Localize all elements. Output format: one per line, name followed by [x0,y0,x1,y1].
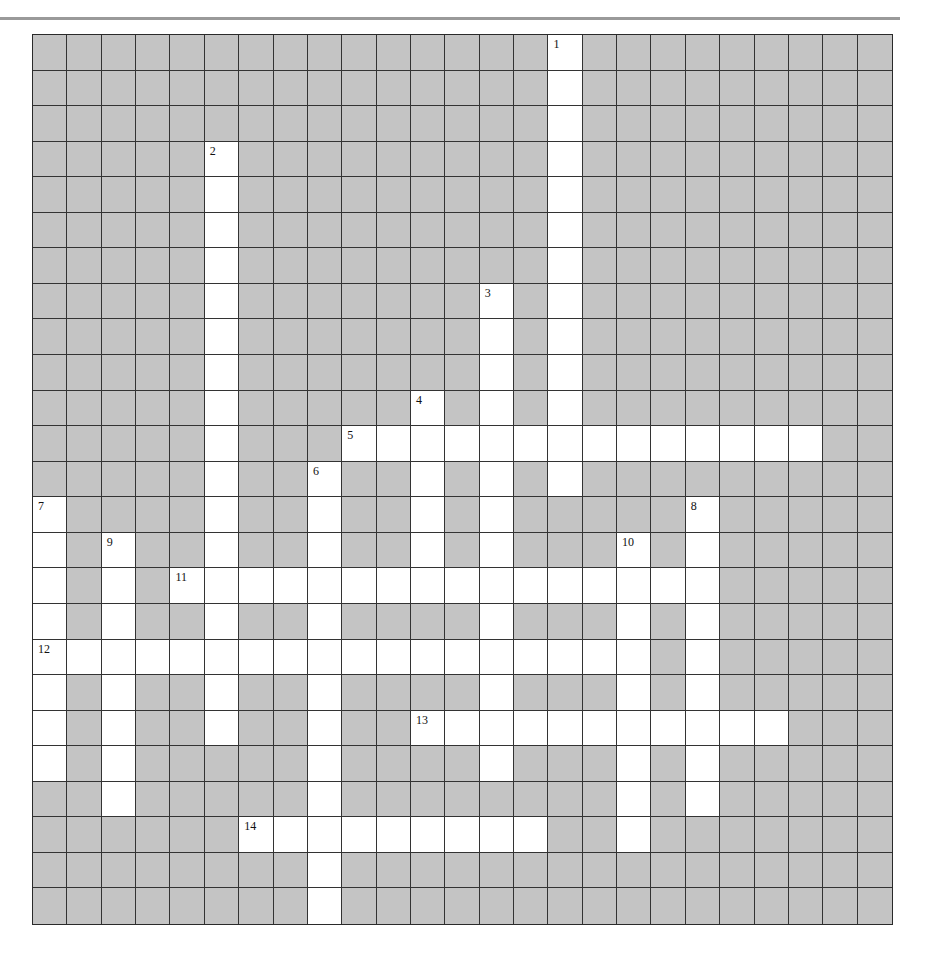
answer-cell[interactable] [308,604,342,640]
answer-cell[interactable] [33,746,67,782]
answer-cell[interactable] [411,462,445,498]
answer-cell[interactable] [308,888,342,924]
answer-cell[interactable] [205,177,239,213]
answer-cell[interactable] [445,568,479,604]
answer-cell[interactable] [617,426,651,462]
answer-cell[interactable] [548,284,582,320]
answer-cell[interactable] [377,568,411,604]
answer-cell[interactable] [377,640,411,676]
answer-cell[interactable] [308,497,342,533]
answer-cell[interactable] [686,675,720,711]
answer-cell[interactable] [33,604,67,640]
answer-cell[interactable] [308,533,342,569]
answer-cell[interactable] [548,213,582,249]
answer-cell[interactable] [102,604,136,640]
answer-cell[interactable] [617,746,651,782]
answer-cell[interactable] [342,817,376,853]
answer-cell[interactable] [102,746,136,782]
answer-cell[interactable] [33,533,67,569]
answer-cell[interactable] [205,568,239,604]
answer-cell[interactable] [548,711,582,747]
answer-cell[interactable] [411,640,445,676]
answer-cell[interactable] [686,746,720,782]
answer-cell[interactable] [308,711,342,747]
answer-cell[interactable] [583,711,617,747]
answer-cell[interactable] [205,711,239,747]
answer-cell[interactable] [617,640,651,676]
answer-cell[interactable] [274,568,308,604]
answer-cell[interactable] [342,640,376,676]
answer-cell[interactable] [583,640,617,676]
answer-cell[interactable] [205,462,239,498]
answer-cell[interactable] [617,782,651,818]
answer-cell[interactable]: 7 [33,497,67,533]
answer-cell[interactable] [411,568,445,604]
answer-cell[interactable] [377,426,411,462]
answer-cell[interactable] [67,640,101,676]
answer-cell[interactable] [548,391,582,427]
answer-cell[interactable] [205,284,239,320]
answer-cell[interactable] [548,71,582,107]
answer-cell[interactable] [33,568,67,604]
answer-cell[interactable] [548,248,582,284]
answer-cell[interactable] [445,640,479,676]
answer-cell[interactable] [548,106,582,142]
answer-cell[interactable] [480,355,514,391]
answer-cell[interactable] [445,426,479,462]
answer-cell[interactable] [686,568,720,604]
answer-cell[interactable] [33,675,67,711]
answer-cell[interactable] [480,462,514,498]
answer-cell[interactable] [205,355,239,391]
answer-cell[interactable] [205,391,239,427]
answer-cell[interactable] [205,213,239,249]
answer-cell[interactable] [480,497,514,533]
answer-cell[interactable] [445,817,479,853]
answer-cell[interactable] [548,568,582,604]
answer-cell[interactable] [480,711,514,747]
answer-cell[interactable] [239,568,273,604]
answer-cell[interactable] [308,640,342,676]
answer-cell[interactable] [308,746,342,782]
answer-cell[interactable] [755,426,789,462]
answer-cell[interactable] [308,675,342,711]
answer-cell[interactable] [514,817,548,853]
answer-cell[interactable] [102,675,136,711]
answer-cell[interactable] [480,391,514,427]
answer-cell[interactable] [480,426,514,462]
answer-cell[interactable]: 4 [411,391,445,427]
answer-cell[interactable]: 6 [308,462,342,498]
answer-cell[interactable] [102,640,136,676]
answer-cell[interactable] [411,533,445,569]
answer-cell[interactable] [205,604,239,640]
answer-cell[interactable] [480,604,514,640]
answer-cell[interactable] [308,568,342,604]
answer-cell[interactable] [102,568,136,604]
answer-cell[interactable]: 5 [342,426,376,462]
answer-cell[interactable] [514,711,548,747]
answer-cell[interactable] [514,640,548,676]
answer-cell[interactable]: 9 [102,533,136,569]
answer-cell[interactable] [548,319,582,355]
answer-cell[interactable]: 8 [686,497,720,533]
answer-cell[interactable] [789,426,823,462]
answer-cell[interactable] [480,640,514,676]
answer-cell[interactable] [480,533,514,569]
answer-cell[interactable] [205,497,239,533]
answer-cell[interactable]: 10 [617,533,651,569]
answer-cell[interactable] [548,426,582,462]
answer-cell[interactable] [308,782,342,818]
answer-cell[interactable] [720,426,754,462]
answer-cell[interactable] [205,640,239,676]
answer-cell[interactable] [480,746,514,782]
answer-cell[interactable] [205,248,239,284]
answer-cell[interactable] [548,177,582,213]
answer-cell[interactable]: 12 [33,640,67,676]
answer-cell[interactable] [308,817,342,853]
answer-cell[interactable]: 1 [548,35,582,71]
answer-cell[interactable]: 14 [239,817,273,853]
answer-cell[interactable] [686,782,720,818]
answer-cell[interactable] [583,426,617,462]
answer-cell[interactable] [720,711,754,747]
answer-cell[interactable] [480,675,514,711]
answer-cell[interactable] [617,817,651,853]
